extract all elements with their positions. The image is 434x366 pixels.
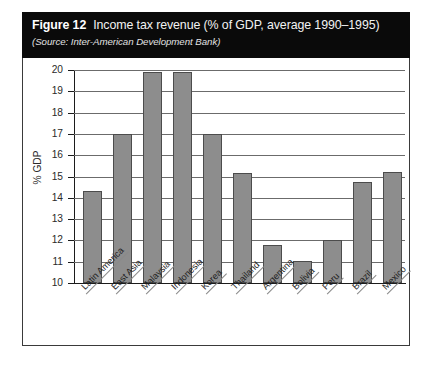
figure-source: (Source: Inter-American Development Bank…	[32, 35, 410, 48]
gridline	[74, 113, 405, 114]
figure-title: Income tax revenue (% of GDP, average 19…	[93, 18, 379, 32]
y-axis-tick-label: 15	[37, 172, 63, 182]
bar	[203, 134, 222, 283]
y-axis-tick-label: 19	[37, 86, 63, 96]
y-axis-tick-label: 20	[37, 65, 63, 75]
y-axis-tick-label: 14	[37, 193, 63, 203]
y-axis-tick-label: 18	[37, 108, 63, 118]
y-axis-tick-label: 11	[37, 257, 63, 267]
figure-number: Figure 12	[32, 18, 86, 32]
y-axis-tick-label: 10	[37, 278, 63, 288]
x-axis-category-labels: Latin AmericaEast AsiaMalaysiaIndonesiaK…	[74, 284, 405, 344]
y-axis-tick-label: 12	[37, 235, 63, 245]
y-axis-tick-label: 17	[37, 129, 63, 139]
bar	[143, 72, 162, 283]
y-axis-title: % GDP	[32, 138, 43, 198]
figure-container: Figure 12Income tax revenue (% of GDP, a…	[22, 12, 410, 346]
y-axis-tick-label: 16	[37, 150, 63, 160]
gridline	[74, 91, 405, 92]
figure-caption-title-line: Figure 12Income tax revenue (% of GDP, a…	[32, 18, 410, 33]
y-axis-tick-label: 13	[37, 214, 63, 224]
figure-caption-bar: Figure 12Income tax revenue (% of GDP, a…	[22, 12, 410, 58]
bar	[173, 72, 192, 283]
chart-panel: % GDP 2019181716151413121110 Latin Ameri…	[22, 58, 410, 346]
gridline	[74, 70, 405, 71]
